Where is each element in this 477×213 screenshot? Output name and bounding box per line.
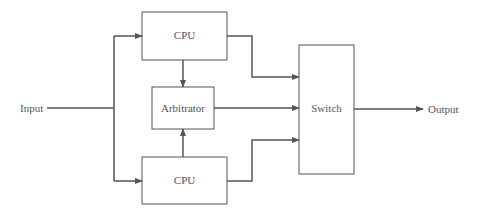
cpu-bottom-label: CPU: [174, 174, 195, 186]
block-diagram: CPU Arbitrator CPU Switch Input Output: [0, 0, 477, 213]
arbitrator-label: Arbitrator: [161, 102, 205, 114]
cpu-top-block: CPU: [142, 12, 227, 60]
switch-label: Switch: [311, 102, 342, 114]
cpu-bottom-block: CPU: [142, 157, 227, 204]
cpu-top-label: CPU: [174, 29, 195, 41]
output-label: Output: [428, 103, 459, 115]
input-label: Input: [20, 102, 43, 114]
input-wires: [47, 36, 142, 181]
arbitrator-block: Arbitrator: [152, 87, 214, 129]
switch-block: Switch: [299, 45, 354, 174]
